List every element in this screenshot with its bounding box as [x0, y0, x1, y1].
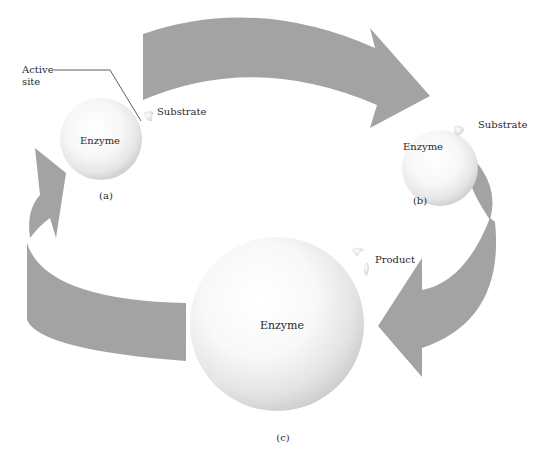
product-shape-1: [352, 248, 364, 257]
curved-arrow-left-body-icon: [27, 243, 186, 361]
substrate-label-a: Substrate: [157, 106, 207, 118]
active-site-label-line2: site: [22, 76, 54, 88]
enzyme-label-a: Enzyme: [80, 135, 120, 146]
caption-c: (c): [276, 432, 289, 443]
product-label: Product: [375, 254, 415, 266]
enzyme-label-c: Enzyme: [260, 319, 304, 332]
active-site-label: Active site: [22, 64, 54, 88]
curved-arrow-up-icon: [29, 148, 66, 238]
curved-arrow-down-left-icon: [378, 218, 496, 377]
enzyme-label-b: Enzyme: [403, 141, 443, 152]
product-shape-2: [364, 262, 369, 276]
substrate-label-b: Substrate: [478, 119, 528, 131]
substrate-shape-a: [144, 111, 154, 121]
caption-a: (a): [99, 190, 113, 201]
substrate-shape-b: [454, 126, 464, 136]
caption-b: (b): [413, 195, 427, 206]
enzyme-cycle-diagram: Active site Substrate Enzyme (a) Substra…: [0, 0, 536, 457]
active-site-label-line1: Active: [22, 64, 54, 76]
diagram-graphics: [0, 0, 536, 457]
